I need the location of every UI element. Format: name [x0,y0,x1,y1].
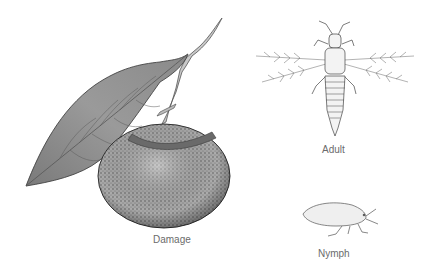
damage-label: Damage [153,234,191,245]
nymph-label: Nymph [318,248,350,259]
nymph-illustration [303,203,378,236]
illustration-canvas [0,0,440,271]
adult-thrips-illustration [256,21,414,136]
damage-illustration [26,18,230,228]
adult-label: Adult [322,144,345,155]
illustration-figure: Damage Adult Nymph [0,0,440,271]
nymph-body [303,203,366,226]
